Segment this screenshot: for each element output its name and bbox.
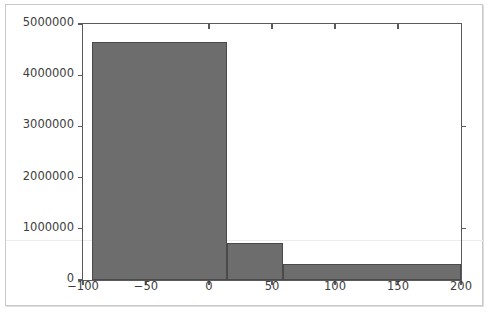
y-tick-label: 3000000 — [23, 119, 74, 131]
y-axis-tick-labels: 5000000 4000000 3000000 2000000 1000000 … — [0, 23, 74, 279]
y-tick-label: 5000000 — [23, 17, 74, 29]
x-tick-label: 100 — [324, 281, 346, 293]
plot-area — [82, 23, 462, 281]
y-tick-label: 1000000 — [23, 222, 74, 234]
y-axis-tick — [78, 23, 83, 24]
x-axis-tick-top — [271, 24, 272, 29]
y-axis-tick-right — [461, 228, 466, 229]
y-axis-tick-right — [461, 126, 466, 127]
x-axis-tick-top — [208, 24, 209, 29]
x-tick-label: −50 — [134, 281, 158, 293]
histogram-bar — [92, 42, 227, 280]
x-tick-label: −100 — [67, 281, 99, 293]
x-tick-label: 150 — [387, 281, 409, 293]
y-axis-tick — [78, 228, 83, 229]
x-tick-label: 0 — [205, 281, 212, 293]
y-axis-tick — [78, 126, 83, 127]
x-tick-label: 50 — [265, 281, 280, 293]
histogram-bar — [227, 243, 284, 280]
histogram-bar — [283, 264, 461, 280]
x-axis-tick-labels: −100 −50 0 50 100 150 200 — [82, 281, 462, 301]
x-axis-tick-top — [397, 24, 398, 29]
y-tick-label: 2000000 — [23, 171, 74, 183]
y-axis-tick — [78, 75, 83, 76]
y-tick-label: 4000000 — [23, 68, 74, 80]
x-tick-label: 200 — [450, 281, 472, 293]
histogram-figure: 5000000 4000000 3000000 2000000 1000000 … — [0, 0, 490, 318]
bars-layer — [83, 24, 461, 280]
y-axis-tick — [78, 177, 83, 178]
x-axis-tick-top — [334, 24, 335, 29]
